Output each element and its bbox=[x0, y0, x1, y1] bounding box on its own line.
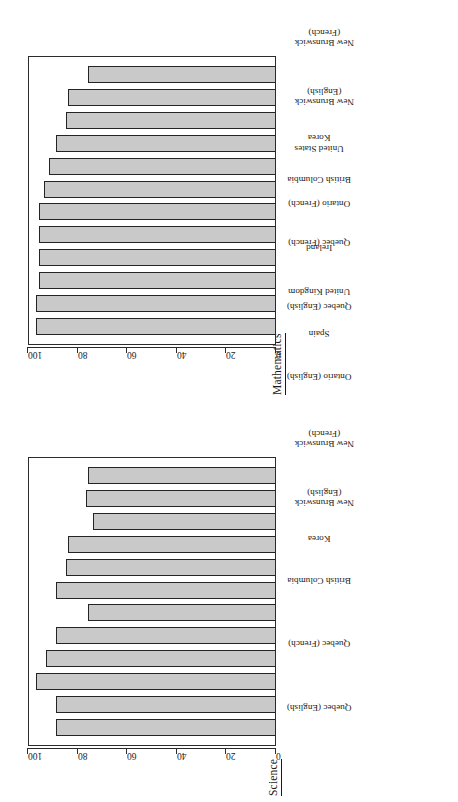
bar bbox=[36, 673, 275, 690]
bar-item bbox=[29, 269, 275, 292]
category-labels-mathematics: Quebec (English)Quebec (French)British C… bbox=[280, 56, 370, 345]
axis-rail bbox=[28, 347, 276, 348]
axis-tick-label: 40 bbox=[177, 350, 187, 360]
bar-item bbox=[29, 510, 275, 533]
bar-group-science bbox=[29, 458, 275, 745]
axis-tick-label: 60 bbox=[127, 751, 137, 761]
bar bbox=[36, 295, 275, 312]
bar bbox=[39, 226, 275, 243]
bar bbox=[36, 318, 275, 335]
category-label: Ontario (English) bbox=[280, 0, 370, 8]
bar-group-mathematics bbox=[29, 57, 275, 344]
bar-item bbox=[29, 693, 275, 716]
category-label: Quebec (English) bbox=[280, 675, 370, 740]
bar bbox=[56, 135, 275, 152]
bar-item bbox=[29, 716, 275, 739]
bar-item bbox=[29, 109, 275, 132]
category-label: New Brunswick(French) bbox=[280, 409, 370, 468]
bar bbox=[56, 719, 275, 736]
bar bbox=[88, 467, 275, 484]
bar-item bbox=[29, 63, 275, 86]
bar-item bbox=[29, 579, 275, 602]
bar-item bbox=[29, 246, 275, 269]
category-labels-science: Quebec (English)Quebec (French)British C… bbox=[280, 457, 370, 746]
bar-item bbox=[29, 132, 275, 155]
bar-item bbox=[29, 223, 275, 246]
bar bbox=[66, 112, 275, 129]
bar-item bbox=[29, 155, 275, 178]
category-label: British Columbia bbox=[280, 550, 370, 614]
bar-item bbox=[29, 86, 275, 109]
axis-tick-label: 40 bbox=[177, 751, 187, 761]
bar-item bbox=[29, 487, 275, 510]
category-label: Quebec (French) bbox=[280, 212, 370, 274]
bar-item bbox=[29, 670, 275, 693]
bar bbox=[39, 272, 275, 289]
axis-tick-label: 80 bbox=[78, 350, 88, 360]
bar bbox=[88, 66, 275, 83]
bar bbox=[44, 181, 275, 198]
bar bbox=[93, 513, 275, 530]
bar bbox=[66, 559, 275, 576]
category-label: New Brunswick(French) bbox=[280, 8, 370, 67]
bar bbox=[86, 490, 275, 507]
bar-item bbox=[29, 533, 275, 556]
bar bbox=[56, 582, 275, 599]
panel-mathematics: Mathematics 020406080100 Quebec (English… bbox=[0, 0, 458, 401]
axis-tick-label: 0 bbox=[276, 751, 281, 761]
category-label: Korea bbox=[280, 527, 370, 549]
bar bbox=[68, 536, 275, 553]
page-content: Science 020406080100 Quebec (English)Que… bbox=[0, 0, 458, 802]
axis-tick-label: 80 bbox=[78, 751, 88, 761]
bar-item bbox=[29, 601, 275, 624]
bar bbox=[56, 627, 275, 644]
bar-item bbox=[29, 556, 275, 579]
category-label: Korea bbox=[280, 126, 370, 148]
axis-rail bbox=[28, 748, 276, 749]
bar bbox=[46, 650, 275, 667]
bar-item bbox=[29, 624, 275, 647]
axis-tick-label: 100 bbox=[28, 751, 42, 761]
bar-item bbox=[29, 292, 275, 315]
category-label: British Columbia bbox=[280, 149, 370, 213]
axis-tick-label: 20 bbox=[226, 350, 236, 360]
panel-science: Science 020406080100 Quebec (English)Que… bbox=[0, 401, 458, 802]
axis-tick-label: 60 bbox=[127, 350, 137, 360]
bar bbox=[88, 604, 275, 621]
rotated-page: Science 020406080100 Quebec (English)Que… bbox=[0, 0, 458, 802]
plot-area-mathematics bbox=[28, 56, 276, 345]
bar-item bbox=[29, 178, 275, 201]
bar bbox=[39, 203, 275, 220]
bar-item bbox=[29, 647, 275, 670]
bar-item bbox=[29, 464, 275, 487]
axis-tick-label: 0 bbox=[276, 350, 281, 360]
category-label: New Brunswick(English) bbox=[280, 67, 370, 126]
bar-item bbox=[29, 200, 275, 223]
category-label: New Brunswick(English) bbox=[280, 468, 370, 527]
category-label: Quebec (French) bbox=[280, 613, 370, 675]
axis-tick-label: 100 bbox=[28, 350, 42, 360]
bar bbox=[49, 158, 275, 175]
category-label: Quebec (English) bbox=[280, 274, 370, 339]
bar bbox=[68, 89, 275, 106]
plot-area-science bbox=[28, 457, 276, 746]
value-axis-science: 020406080100 bbox=[28, 748, 276, 768]
value-axis-mathematics: 020406080100 bbox=[28, 347, 276, 367]
bar-item bbox=[29, 315, 275, 338]
bar bbox=[56, 696, 275, 713]
bar bbox=[39, 249, 275, 266]
axis-tick-label: 20 bbox=[226, 751, 236, 761]
